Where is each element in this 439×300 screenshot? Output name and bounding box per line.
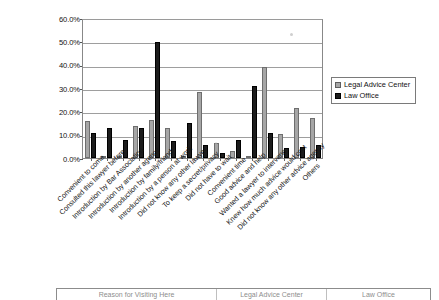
bar-group xyxy=(83,20,99,158)
legend-label: Law Office xyxy=(344,92,379,100)
bar-law-office xyxy=(155,42,160,158)
y-tick-label: 30.0% xyxy=(38,85,80,94)
legend-swatch-icon xyxy=(335,82,341,88)
table-fragment-cell: Legal Advice Center xyxy=(217,289,327,300)
bar-group xyxy=(195,20,211,158)
legend-swatch-icon xyxy=(335,93,341,99)
bar-legal-advice-center xyxy=(262,67,267,158)
bar-group xyxy=(131,20,147,158)
legend-label: Legal Advice Center xyxy=(344,81,410,89)
bar-group xyxy=(276,20,292,158)
bar-group xyxy=(99,20,115,158)
y-tick-label: 60.0% xyxy=(38,15,80,24)
legend-entry: Legal Advice Center xyxy=(335,81,410,89)
bar-group xyxy=(292,20,308,158)
bar-law-office xyxy=(268,133,273,158)
bar-group xyxy=(260,20,276,158)
bars-layer xyxy=(83,20,322,158)
scan-speck xyxy=(215,142,217,144)
bar-group xyxy=(147,20,163,158)
bar-law-office xyxy=(107,128,112,158)
bar-legal-advice-center xyxy=(246,156,251,158)
scan-speck xyxy=(290,33,293,36)
x-axis-category-labels: Convenient to comeConsulted this lawyer … xyxy=(0,160,439,272)
bar-legal-advice-center xyxy=(85,121,90,158)
table-fragment-below-chart: Reason for Visiting HereLegal Advice Cen… xyxy=(56,288,431,300)
chart-legend: Legal Advice CenterLaw Office xyxy=(331,77,416,104)
bar-group xyxy=(212,20,228,158)
bar-group xyxy=(308,20,324,158)
bar-group xyxy=(115,20,131,158)
table-fragment-cell: Reason for Visiting Here xyxy=(57,289,217,300)
plot-area xyxy=(82,19,323,159)
bar-chart-figure: 60.0%50.0%40.0%30.0%20.0%10.0%0.0% Legal… xyxy=(0,0,439,272)
y-tick-label: 40.0% xyxy=(38,61,80,70)
y-tick-label: 10.0% xyxy=(38,131,80,140)
bar-law-office xyxy=(91,133,96,158)
y-tick-label: 20.0% xyxy=(38,108,80,117)
bar-group xyxy=(244,20,260,158)
y-axis: 60.0%50.0%40.0%30.0%20.0%10.0%0.0% xyxy=(38,12,80,166)
bar-group xyxy=(228,20,244,158)
bar-law-office xyxy=(252,86,257,158)
bar-group xyxy=(179,20,195,158)
bar-group xyxy=(163,20,179,158)
y-tick-label: 50.0% xyxy=(38,38,80,47)
legend-entry: Law Office xyxy=(335,92,410,100)
table-fragment-cell: Law Office xyxy=(327,289,430,300)
